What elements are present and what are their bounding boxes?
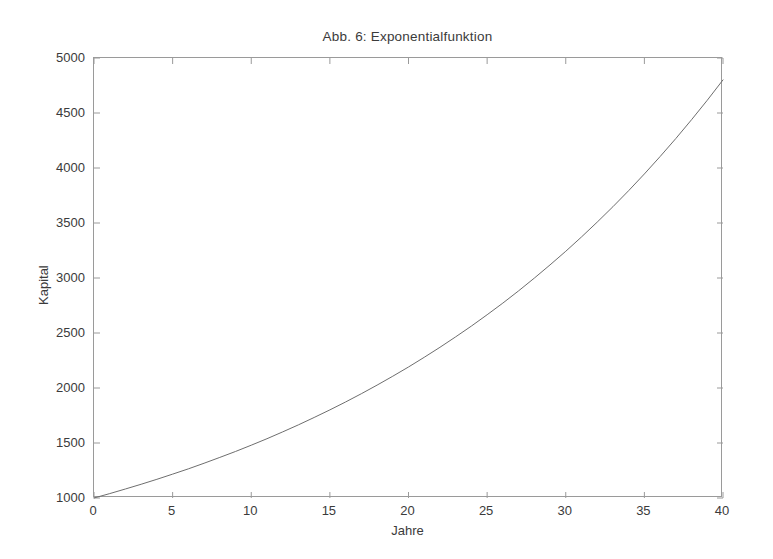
y-tick-label: 2500 [56, 325, 85, 340]
y-tick-label: 4000 [56, 160, 85, 175]
x-tick-label: 35 [636, 503, 650, 518]
x-tick-label: 20 [400, 503, 414, 518]
x-tick-label: 0 [89, 503, 96, 518]
axis-tick-marks [94, 58, 723, 498]
y-tick-label: 3000 [56, 270, 85, 285]
chart-title: Abb. 6: Exponentialfunktion [93, 29, 722, 44]
x-axis-title: Jahre [93, 523, 722, 538]
plot-area [93, 57, 722, 497]
x-tick-label: 25 [479, 503, 493, 518]
plot-svg [94, 58, 723, 498]
x-axis-tick-labels: 0510152025303540 [93, 503, 722, 525]
x-tick-label: 10 [243, 503, 257, 518]
x-tick-label: 5 [168, 503, 175, 518]
y-tick-label: 5000 [56, 50, 85, 65]
figure-canvas: Abb. 6: Exponentialfunktion Kapital 1000… [0, 0, 773, 559]
y-tick-label: 3500 [56, 215, 85, 230]
y-tick-label: 2000 [56, 380, 85, 395]
x-tick-label: 40 [715, 503, 729, 518]
data-series-line-kapital [94, 80, 723, 498]
y-axis-tick-labels: 100015002000250030003500400045005000 [0, 57, 85, 497]
x-tick-label: 15 [322, 503, 336, 518]
y-tick-label: 1000 [56, 490, 85, 505]
y-tick-label: 4500 [56, 105, 85, 120]
y-tick-label: 1500 [56, 435, 85, 450]
x-tick-label: 30 [558, 503, 572, 518]
